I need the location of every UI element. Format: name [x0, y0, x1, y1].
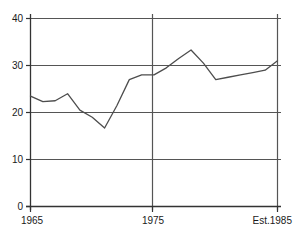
x-tick-label-1975: 1975 [142, 215, 165, 226]
y-tick-label-10: 10 [12, 154, 24, 165]
chart-background [0, 0, 297, 230]
chart-container: 40 30 20 10 0 1965 1975 Est.1985 [0, 0, 297, 230]
x-tick-label-1965: 1965 [21, 215, 44, 226]
y-tick-label-40: 40 [12, 13, 24, 24]
x-tick-label-1985: Est.1985 [253, 215, 293, 226]
y-tick-label-30: 30 [12, 60, 24, 71]
line-chart: 40 30 20 10 0 1965 1975 Est.1985 [0, 0, 297, 230]
y-tick-label-0: 0 [17, 201, 23, 212]
y-tick-label-20: 20 [12, 107, 24, 118]
